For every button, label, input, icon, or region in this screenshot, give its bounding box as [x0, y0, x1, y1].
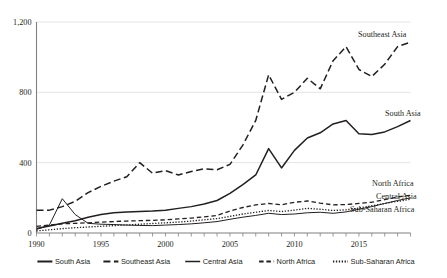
legend-label-north-africa: North Africa — [277, 257, 316, 266]
chart-canvas: 04008001,200 199019952000200520102015 So… — [0, 0, 447, 278]
x-tick-label: 2010 — [286, 240, 302, 249]
y-axis: 04008001,200 — [13, 18, 36, 238]
chart-legend: South AsiaSoutheast AsiaCentral AsiaNort… — [37, 257, 415, 266]
series-end-label-sub-saharan-africa: Sub-Saharan Africa — [350, 205, 415, 214]
x-tick-label: 2000 — [157, 240, 173, 249]
series-end-label-north-africa: North Africa — [372, 179, 414, 188]
x-tick-label: 1995 — [93, 240, 109, 249]
y-tick-label: 0 — [27, 229, 31, 238]
series-end-label-southeast-asia: Southeast Asia — [358, 30, 407, 39]
y-tick-label: 400 — [19, 159, 31, 168]
y-tick-label: 800 — [19, 88, 31, 97]
line-chart: 04008001,200 199019952000200520102015 So… — [0, 0, 447, 278]
legend-label-southeast-asia: Southeast Asia — [121, 257, 171, 266]
y-tick-label: 1,200 — [13, 18, 31, 27]
series-line-sub-saharan-africa — [37, 199, 411, 231]
legend-label-south-asia: South Asia — [55, 257, 91, 266]
series-line-southeast-asia — [37, 42, 411, 210]
x-tick-label: 2005 — [222, 240, 238, 249]
series-end-labels: South AsiaSoutheast AsiaCentral AsiaNort… — [350, 30, 421, 214]
gridlines — [37, 22, 411, 163]
series-end-label-south-asia: South Asia — [385, 109, 421, 118]
x-tick-label: 1990 — [28, 240, 44, 249]
legend-label-sub-saharan-africa: Sub-Saharan Africa — [351, 257, 416, 266]
x-tick-label: 2015 — [351, 240, 367, 249]
series-lines — [37, 42, 411, 231]
legend-label-central-asia: Central Asia — [203, 257, 244, 266]
series-end-label-central-asia: Central Asia — [376, 192, 417, 201]
x-axis: 199019952000200520102015 — [28, 233, 410, 249]
